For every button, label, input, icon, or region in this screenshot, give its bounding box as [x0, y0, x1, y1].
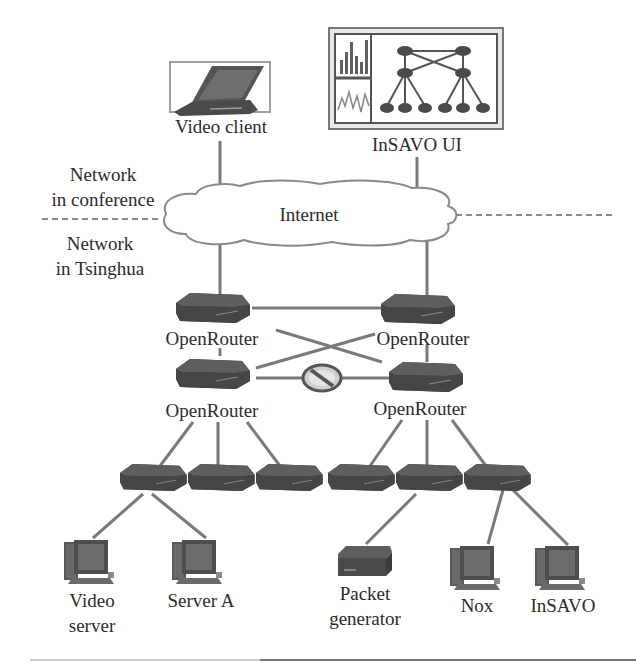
desktop-pc-icon: [172, 540, 222, 584]
openrouter-label: OpenRouter: [374, 397, 467, 420]
desktop-pc-icon: [450, 546, 500, 590]
host-label-insavo: InSAVO: [530, 594, 595, 617]
host-label-video-server-line2: server: [69, 614, 115, 637]
desktop-pc-icon: [64, 540, 114, 584]
diagram-canvas: [0, 0, 636, 669]
switch-icon: [256, 464, 323, 491]
region-label-tsinghua-line2: in Tsinghua: [56, 257, 145, 280]
dashboard-screen-icon: [329, 28, 503, 129]
host-label-video-server-line1: Video: [69, 589, 114, 612]
network-topology-diagram: Video client InSAVO UI Network in confer…: [0, 0, 636, 669]
host-label-nox: Nox: [461, 594, 494, 617]
region-label-tsinghua-line1: Network: [67, 232, 133, 255]
router-icon: [389, 362, 463, 392]
switch-icon: [396, 464, 463, 491]
switch-icon: [464, 464, 531, 491]
switch-icon: [120, 464, 187, 491]
openrouter-label: OpenRouter: [377, 327, 470, 350]
router-icon: [176, 359, 250, 389]
host-label-packet-generator-line2: generator: [329, 607, 401, 630]
laptop-icon: [170, 62, 270, 116]
switch-icon: [188, 464, 255, 491]
router-icon: [176, 293, 250, 323]
insavo-ui-label: InSAVO UI: [372, 133, 462, 156]
host-label-packet-generator-line1: Packet: [340, 582, 391, 605]
router-icon: [381, 294, 455, 324]
no-entry-icon: [303, 365, 341, 391]
host-label-server-a: Server A: [167, 589, 234, 612]
desktop-pc-icon: [535, 546, 585, 590]
video-client-label: Video client: [175, 115, 267, 138]
openrouter-label: OpenRouter: [166, 399, 259, 422]
region-label-conference-line1: Network: [70, 163, 136, 186]
internet-cloud-label: Internet: [279, 203, 338, 226]
openrouter-label: OpenRouter: [166, 327, 259, 350]
switch-icon: [328, 464, 395, 491]
packet-generator-icon: [338, 546, 392, 576]
region-label-conference-line2: in conference: [52, 188, 155, 211]
